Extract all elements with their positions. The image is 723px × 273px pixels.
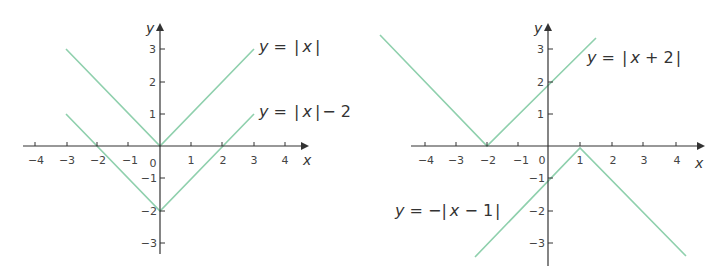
x-tick-label: 2	[220, 154, 227, 167]
x-tick-label: 1	[577, 154, 584, 167]
origin-label: 0	[150, 157, 157, 170]
y-tick-label: −1	[529, 172, 545, 185]
y-tick-label: −2	[529, 205, 545, 218]
y-tick-label: −3	[141, 237, 157, 250]
curve-abs-x-plus-2	[380, 35, 596, 146]
x-tick-label: −3	[59, 154, 75, 167]
left-graph: −4 −3 −2 −1 1 2 3 4 0 3 2 1 −1 −2 −3 y x…	[23, 20, 351, 254]
y-tick-label: 3	[149, 43, 156, 56]
y-tick-label: 1	[537, 108, 544, 121]
y-tick-label: −2	[141, 205, 157, 218]
right-graph: −4 −3 −2 −1 1 2 3 4 0 3 2 1 −1 −2 −3 y x…	[380, 20, 704, 266]
y-tick-label: −3	[529, 237, 545, 250]
x-tick-label: 3	[251, 154, 258, 167]
x-axis-label: x	[694, 155, 704, 171]
figure: −4 −3 −2 −1 1 2 3 4 0 3 2 1 −1 −2 −3 y x…	[0, 0, 723, 273]
x-tick-label: 1	[188, 154, 195, 167]
x-axis-label: x	[302, 152, 312, 168]
y-tick-label: 3	[537, 43, 544, 56]
x-tick-label: 4	[282, 154, 289, 167]
y-tick-label: −1	[141, 172, 157, 185]
x-tick-label: −2	[90, 154, 106, 167]
equation-abs-x-minus-2: y = |x|− 2	[258, 102, 351, 121]
x-tick-label: 4	[674, 154, 681, 167]
y-axis-label: y	[533, 20, 543, 36]
equation-abs-x: y = |x|	[258, 37, 320, 56]
x-tick-label: −1	[122, 154, 138, 167]
y-tick-label: 1	[149, 108, 156, 121]
x-tick-label: −2	[480, 154, 496, 167]
x-tick-label: 3	[641, 154, 648, 167]
x-tick-label: −4	[418, 154, 434, 167]
y-tick-label: 2	[537, 76, 544, 89]
x-tick-label: −1	[513, 154, 529, 167]
equation-neg-abs-x-minus-1: y = −|x − 1|	[394, 201, 500, 220]
x-tick-label: −4	[28, 154, 44, 167]
x-tick-label: 2	[610, 154, 617, 167]
x-tick-label: −3	[448, 154, 464, 167]
equation-abs-x-plus-2: y = |x + 2|	[586, 48, 681, 67]
y-axis-label: y	[145, 20, 155, 36]
y-tick-label: 2	[149, 76, 156, 89]
origin-label: 0	[539, 154, 546, 167]
